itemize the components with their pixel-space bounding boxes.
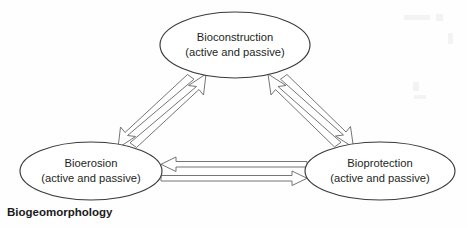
figure-caption: Biogeomorphology — [7, 206, 113, 218]
biogeomorphology-diagram: Bioconstruction (active and passive) Bio… — [0, 0, 467, 229]
node-bioerosion-title: Bioerosion — [65, 157, 118, 169]
node-bioconstruction-title: Bioconstruction — [197, 31, 274, 43]
figure-canvas: Bioconstruction (active and passive) Bio… — [0, 0, 467, 229]
arrow-bioconstruction-to-bioerosion — [118, 75, 194, 149]
arrow-bioerosion-to-bioprotection — [161, 171, 307, 186]
node-bioprotection-subtitle: (active and passive) — [330, 172, 430, 184]
node-bioerosion-subtitle: (active and passive) — [41, 172, 141, 184]
arrow-bioconstruction-to-bioprotection — [281, 75, 354, 148]
node-bioconstruction[interactable]: Bioconstruction (active and passive) — [160, 12, 310, 78]
arrow-bioprotection-to-bioerosion — [161, 157, 307, 172]
arrow-bioprotection-to-bioconstruction — [268, 74, 341, 147]
arrow-bioerosion-to-bioconstruction — [130, 74, 206, 148]
node-bioprotection-title: Bioprotection — [347, 157, 412, 169]
node-bioprotection[interactable]: Bioprotection (active and passive) — [305, 142, 455, 200]
node-bioconstruction-subtitle: (active and passive) — [185, 46, 285, 58]
node-bioerosion[interactable]: Bioerosion (active and passive) — [20, 142, 162, 200]
